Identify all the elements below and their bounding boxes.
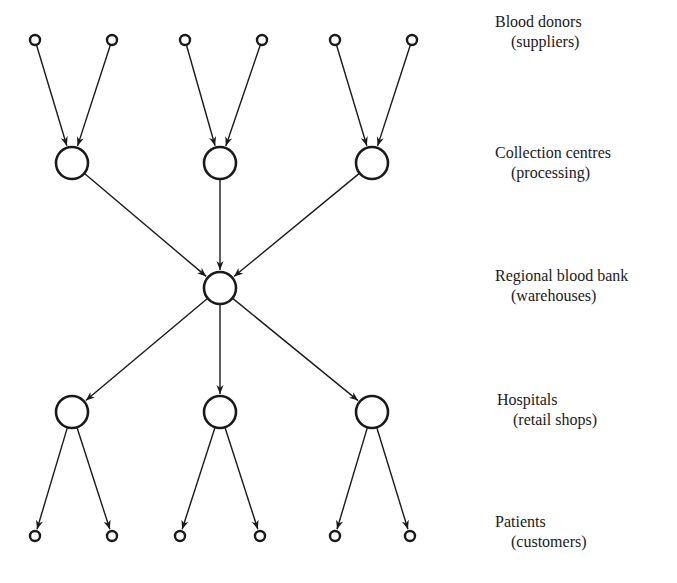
nodes: [30, 35, 417, 541]
flow-arrow: [86, 298, 208, 400]
flow-arrow: [378, 45, 411, 146]
label-hospitals: Hospitals (retail shops): [497, 390, 597, 430]
label-subtitle: (retail shops): [497, 410, 597, 430]
hospitals-node: [356, 396, 388, 428]
flow-arrow: [337, 427, 367, 529]
collection-node: [356, 147, 388, 179]
label-subtitle: (warehouses): [495, 286, 628, 306]
patients-node: [107, 531, 117, 541]
flow-arrow: [36, 45, 66, 146]
flow-arrow: [182, 427, 215, 529]
flow-arrow: [377, 427, 408, 529]
patients-node: [30, 531, 40, 541]
label-title: Regional blood bank: [495, 267, 628, 284]
flow-arrow: [234, 173, 360, 276]
collection-node: [56, 147, 88, 179]
label-title: Patients: [495, 513, 546, 530]
patients-node: [330, 531, 340, 541]
flow-arrow: [186, 45, 215, 146]
label-title: Collection centres: [495, 144, 611, 161]
donors-node: [257, 35, 267, 45]
label-collection-centres: Collection centres (processing): [495, 143, 611, 183]
donors-node: [407, 35, 417, 45]
flow-arrow: [232, 298, 358, 401]
flow-arrow: [37, 427, 67, 529]
patients-node: [255, 531, 265, 541]
label-title: Hospitals: [497, 391, 557, 408]
hospitals-node: [204, 396, 236, 428]
flow-arrow: [78, 45, 111, 146]
hospitals-node: [56, 396, 88, 428]
flow-arrow: [226, 45, 261, 146]
donors-node: [330, 35, 340, 45]
label-subtitle: (customers): [495, 532, 587, 552]
patients-node: [405, 531, 415, 541]
label-regional-blood-bank: Regional blood bank (warehouses): [495, 266, 628, 306]
flow-arrow: [84, 173, 206, 276]
patients-node: [175, 531, 185, 541]
collection-node: [204, 147, 236, 179]
label-patients: Patients (customers): [495, 512, 587, 552]
flow-arrow: [77, 427, 110, 529]
label-subtitle: (suppliers): [495, 32, 582, 52]
donors-node: [30, 35, 40, 45]
label-subtitle: (processing): [495, 163, 611, 183]
donors-node: [180, 35, 190, 45]
regional-node: [204, 272, 236, 304]
flow-arrow: [225, 427, 258, 529]
flow-arrow: [336, 45, 366, 146]
label-blood-donors: Blood donors (suppliers): [495, 12, 582, 52]
donors-node: [107, 35, 117, 45]
label-title: Blood donors: [495, 13, 582, 30]
